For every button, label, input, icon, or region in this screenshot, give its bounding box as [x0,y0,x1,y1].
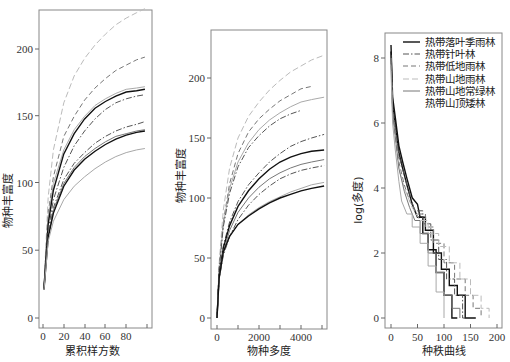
x-tick-label: 4000 [290,331,313,343]
y-tick-label: 200 [189,72,206,84]
legend-label: 热带落叶季雨林 [425,36,496,48]
x-ticks: 0 20 40 60 80 [40,324,147,342]
y-tick-label: 6 [374,117,380,129]
series-line [44,87,145,286]
series-line [217,150,324,318]
series-line [217,134,324,318]
panel-species-abundance: 0 50 100 150 200 0 2000 4000 物种多度 物种丰富度 [174,30,327,358]
panel-rank-abundance: 0 2 4 6 8 0 50 100 150 200 种秩曲线 log(多度) … [351,33,506,358]
legend-label: 热带山地常绿林 [425,85,496,97]
y-ticks: 0 50 100 150 200 [17,43,40,324]
x-ticks: 0 50 100 150 200 [388,324,506,343]
series-lines [217,55,324,318]
y-tick-label: 0 [28,312,34,324]
plot-frame [39,10,152,328]
y-tick-label: 4 [374,182,380,194]
series-lines [44,9,145,290]
x-tick-label: 100 [436,331,453,343]
y-tick-label: 50 [22,244,34,256]
x-tick-label: 200 [489,331,506,343]
y-axis-title: 物种丰富度 [174,148,188,203]
series-line [217,160,324,318]
y-axis-title: log(多度) [351,176,365,223]
y-ticks: 0 2 4 6 8 [374,52,386,324]
x-tick-label: 0 [388,331,394,343]
series-line [217,110,301,318]
series-line [44,9,145,285]
series-line [217,97,324,318]
x-tick-label: 2000 [248,331,271,343]
x-tick-label: 20 [59,330,71,342]
y-axis-title: 物种丰富度 [1,173,15,228]
x-tick-label: 0 [214,331,220,343]
series-line [44,95,145,289]
x-ticks: 0 2000 4000 [214,325,322,343]
series-line [217,55,324,318]
x-tick-label: 0 [40,330,46,342]
x-axis-title: 累积样方数 [65,344,120,358]
y-tick-label: 8 [374,52,380,64]
y-tick-label: 150 [17,110,34,122]
series-line [217,86,312,318]
y-tick-label: 200 [17,43,34,55]
x-tick-label: 150 [462,331,479,343]
y-tick-label: 0 [374,312,380,324]
y-tick-label: 150 [189,132,206,144]
legend-label: 热带针叶林 [425,48,476,60]
x-tick-label: 50 [412,331,424,343]
x-tick-label: 80 [121,330,133,342]
y-tick-label: 50 [194,252,206,264]
series-line [217,166,324,318]
panel-species-accumulation: 0 50 100 150 200 0 20 40 60 80 累积样方数 物种丰… [1,9,152,358]
series-line [217,186,324,318]
legend: 热带落叶季雨林 热带针叶林 热带低地雨林 热带山地雨林 热带山地常绿林 热带山顶… [403,36,496,109]
y-tick-label: 100 [17,177,34,189]
legend-label: 热带低地雨林 [425,60,486,72]
legend-label: 热带山地雨林 [425,73,486,85]
x-tick-label: 60 [100,330,112,342]
y-tick-label: 2 [374,247,380,259]
y-tick-label: 100 [189,192,206,204]
y-ticks: 0 50 100 150 200 [189,72,212,324]
figure: 0 50 100 150 200 0 20 40 60 80 累积样方数 物种丰… [0,0,510,362]
x-tick-label: 40 [80,330,92,342]
legend-label: 热带山顶矮林 [425,97,486,109]
x-axis-title: 物种多度 [247,344,291,358]
series-line [44,122,145,289]
y-tick-label: 0 [200,312,206,324]
x-axis-title: 种秩曲线 [422,344,466,358]
